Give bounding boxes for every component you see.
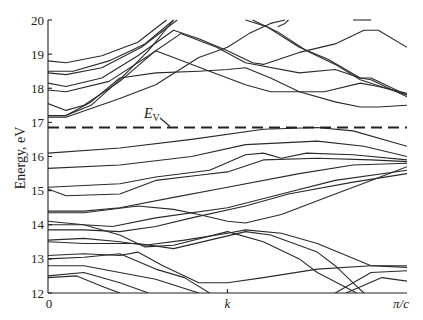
y-axis-ticks: 121314151617181920 [31, 13, 52, 301]
band-vb1 [48, 128, 407, 154]
band-vb14 [48, 266, 199, 293]
ev-leader-line [160, 118, 170, 126]
ev-annotation: EV [143, 106, 170, 126]
band-structure-chart: EV 121314151617181920 0kπ/c Energy, eV [0, 0, 423, 320]
band-cb10 [246, 20, 408, 97]
band-vb8 [48, 174, 407, 232]
band-vb7 [48, 170, 407, 226]
y-tick-label: 15 [31, 183, 44, 198]
x-tick-label: k [225, 296, 231, 311]
y-tick-label: 12 [31, 286, 44, 301]
y-tick-label: 13 [31, 251, 44, 266]
band-lines [48, 20, 407, 293]
band-cb3 [48, 20, 177, 75]
y-tick-label: 20 [31, 13, 44, 28]
band-cb5 [48, 34, 407, 96]
axes [48, 20, 407, 293]
x-tick-label: π/c [393, 296, 409, 311]
y-tick-label: 17 [31, 115, 45, 130]
band-vb16 [48, 276, 120, 293]
y-tick-label: 19 [31, 47, 44, 62]
y-tick-label: 18 [31, 81, 44, 96]
y-axis-title: Energy, eV [13, 127, 28, 190]
band-cb6 [48, 51, 407, 111]
y-tick-label: 16 [31, 149, 45, 164]
band-vb4 [48, 158, 407, 196]
x-tick-label: 0 [46, 296, 53, 311]
ev-label: EV [143, 106, 161, 123]
y-tick-label: 14 [31, 217, 45, 232]
